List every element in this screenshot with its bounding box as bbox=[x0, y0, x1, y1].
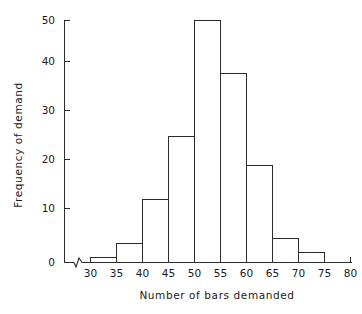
histogram-bar-55-60 bbox=[221, 74, 247, 263]
y-tick-label-20: 20 bbox=[42, 153, 55, 165]
y-axis-tick-marks bbox=[65, 21, 71, 209]
histogram-bars bbox=[91, 21, 325, 263]
y-tick-label-30: 30 bbox=[42, 104, 55, 116]
x-axis-tick-labels: 30 35 40 45 50 55 60 65 70 75 80 bbox=[84, 267, 357, 279]
y-axis-title: Frequency of demand bbox=[12, 82, 24, 208]
x-tick-label-55: 55 bbox=[214, 267, 227, 279]
x-tick-label-45: 45 bbox=[162, 267, 175, 279]
y-axis-tick-labels: 50 40 30 20 10 0 bbox=[42, 14, 55, 268]
histogram-bar-65-70 bbox=[273, 238, 299, 262]
histogram-bar-35-40 bbox=[117, 243, 143, 262]
y-tick-label-10: 10 bbox=[42, 202, 55, 214]
histogram-bar-40-45 bbox=[143, 200, 169, 263]
x-tick-label-40: 40 bbox=[136, 267, 149, 279]
x-tick-label-60: 60 bbox=[240, 267, 253, 279]
x-tick-label-70: 70 bbox=[292, 267, 305, 279]
x-tick-label-30: 30 bbox=[84, 267, 97, 279]
x-tick-label-35: 35 bbox=[110, 267, 123, 279]
x-tick-label-50: 50 bbox=[188, 267, 201, 279]
chart-canvas: 50 40 30 20 10 0 bbox=[0, 0, 362, 314]
histogram-bar-60-65 bbox=[247, 166, 273, 263]
y-tick-label-0: 0 bbox=[48, 256, 55, 268]
x-tick-label-75: 75 bbox=[318, 267, 331, 279]
x-axis-title: Number of bars demanded bbox=[139, 289, 294, 301]
y-tick-label-40: 40 bbox=[42, 55, 55, 67]
histogram-bar-70-75 bbox=[299, 253, 325, 263]
x-axis-break-icon bbox=[74, 258, 82, 267]
x-tick-label-65: 65 bbox=[266, 267, 279, 279]
histogram-bar-45-50 bbox=[169, 137, 195, 263]
histogram-bar-50-55 bbox=[195, 21, 221, 263]
histogram-figure: 50 40 30 20 10 0 bbox=[0, 0, 362, 314]
histogram-bar-30-35 bbox=[91, 258, 117, 263]
x-tick-label-80: 80 bbox=[344, 267, 357, 279]
y-tick-label-50: 50 bbox=[42, 14, 55, 26]
